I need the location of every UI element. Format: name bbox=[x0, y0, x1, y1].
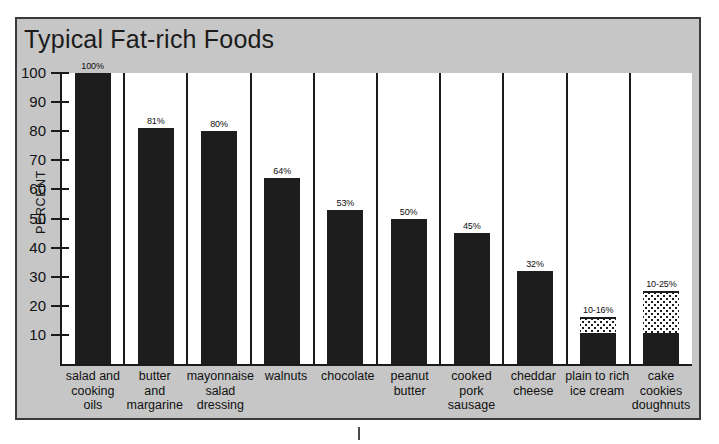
y-tick-mark bbox=[51, 159, 69, 161]
category-label: peanutbutter bbox=[379, 369, 441, 413]
y-tick-mark bbox=[51, 247, 69, 249]
y-tick-mark bbox=[51, 276, 69, 278]
bar-solid-segment bbox=[75, 73, 111, 364]
category-label-line: cooking bbox=[63, 384, 123, 399]
bar: 100% bbox=[75, 73, 111, 364]
category-label-line: butter bbox=[380, 384, 440, 399]
category-label-line: doughnuts bbox=[631, 398, 691, 413]
bar-value-label: 100% bbox=[81, 61, 104, 71]
bar-column: 81% bbox=[125, 73, 188, 364]
bar-solid-segment bbox=[580, 335, 616, 364]
category-label: butterandmargarine bbox=[124, 369, 186, 413]
category-label-line: ice cream bbox=[565, 384, 629, 399]
bar-column: 45% bbox=[441, 73, 504, 364]
y-tick-mark bbox=[51, 218, 69, 220]
category-label-line: cheddar bbox=[503, 369, 563, 384]
bar-column: 64% bbox=[252, 73, 315, 364]
bar-value-label: 32% bbox=[526, 259, 544, 269]
y-tick-label: 50 bbox=[6, 211, 46, 226]
bar-column: 32% bbox=[504, 73, 567, 364]
y-tick-mark bbox=[51, 130, 69, 132]
bottom-tick-mark bbox=[358, 427, 360, 440]
category-label-line: walnuts bbox=[256, 369, 316, 384]
category-label-line: peanut bbox=[380, 369, 440, 384]
bar-value-label: 64% bbox=[273, 166, 291, 176]
category-label-line: cake bbox=[631, 369, 691, 384]
bar-value-label: 10-16% bbox=[583, 305, 613, 315]
bar: 10-25% bbox=[643, 291, 679, 364]
bar-solid-segment bbox=[138, 128, 174, 364]
bar: 45% bbox=[454, 233, 490, 364]
bar-solid-segment bbox=[264, 178, 300, 364]
category-label-line: mayonnaise bbox=[187, 369, 254, 384]
category-label-line: salad bbox=[187, 384, 254, 399]
category-label-line: cookies bbox=[631, 384, 691, 399]
category-label: walnuts bbox=[255, 369, 317, 413]
y-tick-label: 30 bbox=[6, 269, 46, 284]
category-label-line: and bbox=[125, 384, 185, 399]
bar-solid-segment bbox=[391, 219, 427, 365]
bar-column: 50% bbox=[378, 73, 441, 364]
y-tick-label: 100 bbox=[6, 65, 46, 80]
bar-columns: 100%81%80%64%53%50%45%32%10-16%10-25% bbox=[62, 73, 692, 364]
bar-column: 53% bbox=[315, 73, 378, 364]
bar-value-label: 53% bbox=[337, 198, 355, 208]
category-label: plain to richice cream bbox=[564, 369, 630, 413]
bar-column: 100% bbox=[62, 73, 125, 364]
category-label-line: salad and bbox=[63, 369, 123, 384]
bar-range-segment bbox=[580, 317, 616, 334]
chart-title: Typical Fat-rich Foods bbox=[24, 25, 274, 54]
bar-solid-segment bbox=[327, 210, 363, 364]
y-tick-label: 80 bbox=[6, 123, 46, 138]
bar: 32% bbox=[517, 271, 553, 364]
bar-value-label: 80% bbox=[210, 119, 228, 129]
bar-value-label: 81% bbox=[147, 116, 165, 126]
bar-value-label: 10-25% bbox=[646, 279, 676, 289]
bar: 53% bbox=[327, 210, 363, 364]
bar: 81% bbox=[138, 128, 174, 364]
category-label-line: sausage bbox=[442, 398, 502, 413]
bar: 64% bbox=[264, 178, 300, 364]
bar-column: 10-16% bbox=[568, 73, 631, 364]
category-label-line: cooked bbox=[442, 369, 502, 384]
category-label-line: plain to rich bbox=[565, 369, 629, 384]
bar: 80% bbox=[201, 131, 237, 364]
category-label: cakecookiesdoughnuts bbox=[630, 369, 692, 413]
y-tick-mark bbox=[51, 188, 69, 190]
y-tick-label: 40 bbox=[6, 240, 46, 255]
category-label-line: pork bbox=[442, 384, 502, 399]
bar-solid-segment bbox=[201, 131, 237, 364]
y-tick-mark bbox=[51, 305, 69, 307]
y-tick-mark bbox=[51, 334, 69, 336]
category-label: chocolate bbox=[317, 369, 379, 413]
y-tick-label: 10 bbox=[6, 327, 46, 342]
category-label-line: cheese bbox=[503, 384, 563, 399]
y-tick-label: 70 bbox=[6, 152, 46, 167]
y-tick-mark bbox=[51, 72, 69, 74]
bar: 10-16% bbox=[580, 317, 616, 364]
plot-area: 100%81%80%64%53%50%45%32%10-16%10-25% 10… bbox=[60, 73, 692, 366]
category-label: salad andcookingoils bbox=[62, 369, 124, 413]
bar-solid-segment bbox=[643, 335, 679, 364]
bar-solid-segment bbox=[517, 271, 553, 364]
bar-solid-segment bbox=[454, 233, 490, 364]
category-label-line: margarine bbox=[125, 398, 185, 413]
y-tick-label: 90 bbox=[6, 94, 46, 109]
chart-figure: Typical Fat-rich Foods PERCENT 100%81%80… bbox=[0, 0, 719, 444]
category-label-line: dressing bbox=[187, 398, 254, 413]
category-labels: salad andcookingoilsbutterandmargarinema… bbox=[62, 369, 692, 413]
bar: 50% bbox=[391, 219, 427, 365]
bar-column: 80% bbox=[188, 73, 251, 364]
category-label-line: oils bbox=[63, 398, 123, 413]
y-tick-mark bbox=[51, 101, 69, 103]
y-tick-label: 60 bbox=[6, 181, 46, 196]
category-label-line: chocolate bbox=[318, 369, 378, 384]
bar-value-label: 50% bbox=[400, 207, 418, 217]
bar-range-segment bbox=[643, 291, 679, 335]
category-label-line: butter bbox=[125, 369, 185, 384]
category-label: cookedporksausage bbox=[441, 369, 503, 413]
y-tick-label: 20 bbox=[6, 298, 46, 313]
bar-value-label: 45% bbox=[463, 221, 481, 231]
category-label: cheddarcheese bbox=[502, 369, 564, 413]
x-axis-line bbox=[60, 364, 692, 366]
